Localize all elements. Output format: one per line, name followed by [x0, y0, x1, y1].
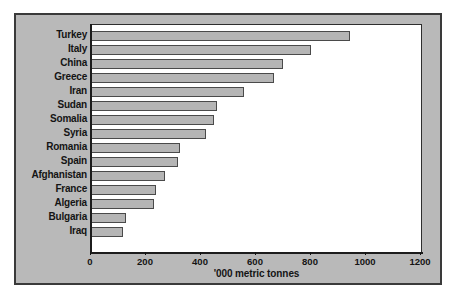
- bar: [90, 87, 244, 97]
- bar-row: [90, 155, 421, 169]
- bar-row: [90, 57, 421, 71]
- category-label-syria: Syria: [17, 126, 87, 140]
- bar: [90, 171, 165, 181]
- x-tick-mark: [420, 252, 421, 255]
- x-tick-label: 800: [302, 256, 318, 267]
- bar-row: [90, 71, 421, 85]
- category-label-sudan: Sudan: [17, 98, 87, 112]
- bar-row: [90, 99, 421, 113]
- x-tick-mark: [200, 252, 201, 255]
- bar-row: [90, 211, 421, 225]
- category-label-france: France: [17, 182, 87, 196]
- x-tick-label: 0: [87, 256, 92, 267]
- category-label-greece: Greece: [17, 70, 87, 84]
- category-label-iran: Iran: [17, 84, 87, 98]
- category-label-turkey: Turkey: [17, 28, 87, 42]
- bar-row: [90, 85, 421, 99]
- chart-figure: TurkeyItalyChinaGreeceIranSudanSomaliaSy…: [0, 0, 456, 298]
- category-label-algeria: Algeria: [17, 196, 87, 210]
- category-label-romania: Romania: [17, 140, 87, 154]
- bar: [90, 31, 350, 41]
- bar: [90, 157, 178, 167]
- y-axis-line: [90, 24, 92, 254]
- x-tick-label: 200: [137, 256, 153, 267]
- bar-row: [90, 183, 421, 197]
- category-label-italy: Italy: [17, 42, 87, 56]
- bar: [90, 73, 274, 83]
- plot-area: [90, 24, 422, 252]
- bar-row: [90, 197, 421, 211]
- bar-row: [90, 29, 421, 43]
- x-axis-title: '000 metric tonnes: [90, 268, 423, 279]
- x-tick-label: 400: [192, 256, 208, 267]
- x-tick-label: 600: [247, 256, 263, 267]
- bar: [90, 199, 154, 209]
- bar: [90, 59, 283, 69]
- bar-row: [90, 141, 421, 155]
- bar-row: [90, 113, 421, 127]
- bar-row: [90, 225, 421, 239]
- category-axis-labels: TurkeyItalyChinaGreeceIranSudanSomaliaSy…: [16, 24, 87, 252]
- x-tick-mark: [90, 252, 91, 255]
- bar-row: [90, 43, 421, 57]
- bar: [90, 213, 126, 223]
- x-tick-mark: [365, 252, 366, 255]
- x-tick-mark: [310, 252, 311, 255]
- bar: [90, 115, 214, 125]
- x-tick-label: 1200: [409, 256, 430, 267]
- bar: [90, 227, 123, 237]
- bar-row: [90, 127, 421, 141]
- bar: [90, 101, 217, 111]
- x-tick-label: 1000: [354, 256, 375, 267]
- bar: [90, 129, 206, 139]
- x-axis-line: [90, 252, 423, 254]
- category-label-bulgaria: Bulgaria: [17, 210, 87, 224]
- bar: [90, 185, 156, 195]
- category-label-spain: Spain: [17, 154, 87, 168]
- bar: [90, 45, 311, 55]
- category-label-iraq: Iraq: [17, 224, 87, 238]
- chart-plate: TurkeyItalyChinaGreeceIranSudanSomaliaSy…: [14, 13, 442, 285]
- x-tick-mark: [255, 252, 256, 255]
- bar-row: [90, 169, 421, 183]
- category-label-somalia: Somalia: [17, 112, 87, 126]
- category-label-afghanistan: Afghanistan: [17, 168, 87, 182]
- bar: [90, 143, 180, 153]
- x-tick-mark: [145, 252, 146, 255]
- category-label-china: China: [17, 56, 87, 70]
- x-axis-ticks: 020040060080010001200: [90, 255, 423, 269]
